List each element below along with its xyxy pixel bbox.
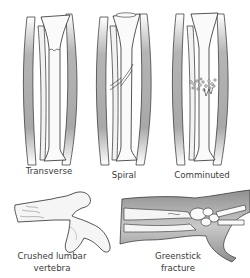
crushed-lumbar-vertebra-illustration (15, 192, 110, 252)
label-greenstick-line2: fracture (161, 263, 195, 273)
label-comminuted: Comminuted (174, 170, 229, 180)
spiral-fracture-illustration (96, 13, 151, 165)
comminuted-fracture-illustration (172, 13, 228, 165)
label-greenstick-line1: Greenstick (155, 251, 201, 261)
label-crushed-lumbar-line2: vertebra (34, 263, 71, 273)
fracture-diagram: Transverse Spiral Comminuted (0, 0, 250, 278)
label-transverse: Transverse (25, 166, 72, 176)
label-spiral: Spiral (112, 170, 137, 180)
label-crushed-lumbar-line1: Crushed lumbar (18, 251, 87, 261)
transverse-fracture-illustration (23, 14, 77, 165)
